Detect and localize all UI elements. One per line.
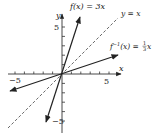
y-tick-pos5: 5	[54, 23, 59, 32]
x-axis-label: x	[119, 64, 124, 73]
f-label: f(x) = 3x	[69, 2, 106, 11]
svg-text:3: 3	[143, 46, 146, 52]
identity-label: y = x	[120, 9, 141, 18]
svg-text:f−1(x) =: f−1(x) =	[109, 41, 139, 51]
function-graph: x y −5 5 5 −5 f(x) = 3x y = x f−1(x) = 1…	[0, 0, 154, 135]
x-tick-pos5: 5	[104, 77, 109, 86]
x-tick-neg5: −5	[9, 76, 21, 85]
finv-line	[10, 55, 118, 91]
finv-label: f−1(x) = 1 3 x	[109, 40, 152, 52]
y-tick-neg5: −5	[52, 117, 64, 126]
svg-text:x: x	[147, 42, 152, 51]
y-axis-label: y	[55, 11, 61, 20]
